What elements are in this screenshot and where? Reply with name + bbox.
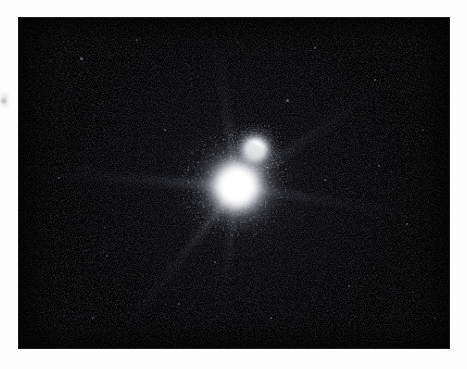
sky-background [19, 18, 449, 348]
film-edge-smudge-spot-icon [1, 99, 6, 103]
film-edge-smudge-icon [0, 92, 9, 108]
screenshot-canvas [0, 0, 467, 369]
astronomical-image-frame [19, 18, 449, 348]
